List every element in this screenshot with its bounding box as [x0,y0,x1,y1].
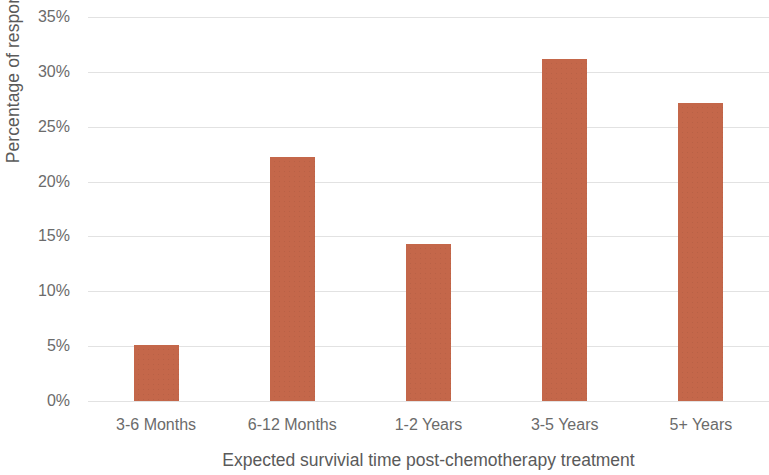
gridline [88,182,769,183]
y-axis-tick-label: 30% [12,64,70,80]
bar [406,244,451,401]
y-axis-tick-label: 5% [12,338,70,354]
bar [678,103,723,401]
x-axis-tick-label: 3-6 Months [88,414,224,436]
gridline [88,236,769,237]
x-axis-tick-label: 1-2 Years [360,414,496,436]
y-axis-tick-label: 35% [12,9,70,25]
y-axis-tick-label: 15% [12,228,70,244]
gridline [88,401,769,402]
gridline [88,127,769,128]
gridline [88,17,769,18]
y-axis-tick-label: 25% [12,119,70,135]
y-axis-tick-label: 20% [12,174,70,190]
x-axis-title: Expected survivial time post-chemotherap… [88,449,769,471]
y-axis-tick-label: 10% [12,283,70,299]
bar [542,59,587,401]
gridline [88,72,769,73]
y-axis-tick-label: 0% [12,393,70,409]
plot-area [88,17,769,401]
x-axis-tick-label: 6-12 Months [224,414,360,436]
bar [134,345,179,401]
y-axis-title: Percentage of respondents [0,0,26,186]
bar-chart: Percentage of respondents 35%30%25%20%15… [0,0,769,475]
x-axis-tick-label: 3-5 Years [497,414,633,436]
x-axis-tick-label: 5+ Years [633,414,769,436]
bar [270,157,315,401]
